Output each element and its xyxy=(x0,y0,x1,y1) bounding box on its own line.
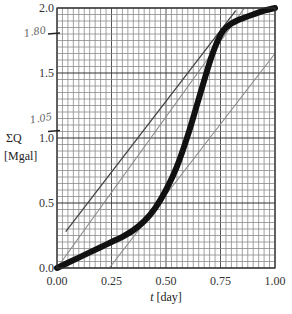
y-tick-label: 2.0 xyxy=(39,1,54,15)
annotation-label: 1.05 xyxy=(29,111,53,126)
y-tick-label: 1.5 xyxy=(39,66,54,80)
y-tick-label: 1.0 xyxy=(39,131,54,145)
x-tick-label: 0.75 xyxy=(210,274,231,288)
y-axis-label-var: ΣQ xyxy=(6,131,22,145)
series-line-1 xyxy=(66,11,236,232)
x-tick-label: 1.00 xyxy=(265,274,286,288)
annotation-label: 1.80 xyxy=(23,24,47,39)
x-axis-label: t [day] xyxy=(150,290,182,304)
y-tick-label: 0.0 xyxy=(39,261,54,275)
x-tick-label: 0.00 xyxy=(47,274,68,288)
annotation-tick-mark xyxy=(48,33,60,34)
y-axis-label-unit: [Mgal] xyxy=(4,149,37,163)
grid xyxy=(57,8,275,268)
x-axis-ticks: 0.000.250.500.751.00 xyxy=(47,274,286,288)
x-tick-label: 0.50 xyxy=(156,274,177,288)
x-tick-label: 0.25 xyxy=(101,274,122,288)
y-axis-ticks: 0.00.51.01.52.0 xyxy=(39,1,54,275)
y-tick-label: 0.5 xyxy=(39,196,54,210)
annotation-tick-mark xyxy=(48,131,60,132)
mass-curve-chart: 0.000.250.500.751.00 0.00.51.01.52.0 1.8… xyxy=(0,0,292,314)
